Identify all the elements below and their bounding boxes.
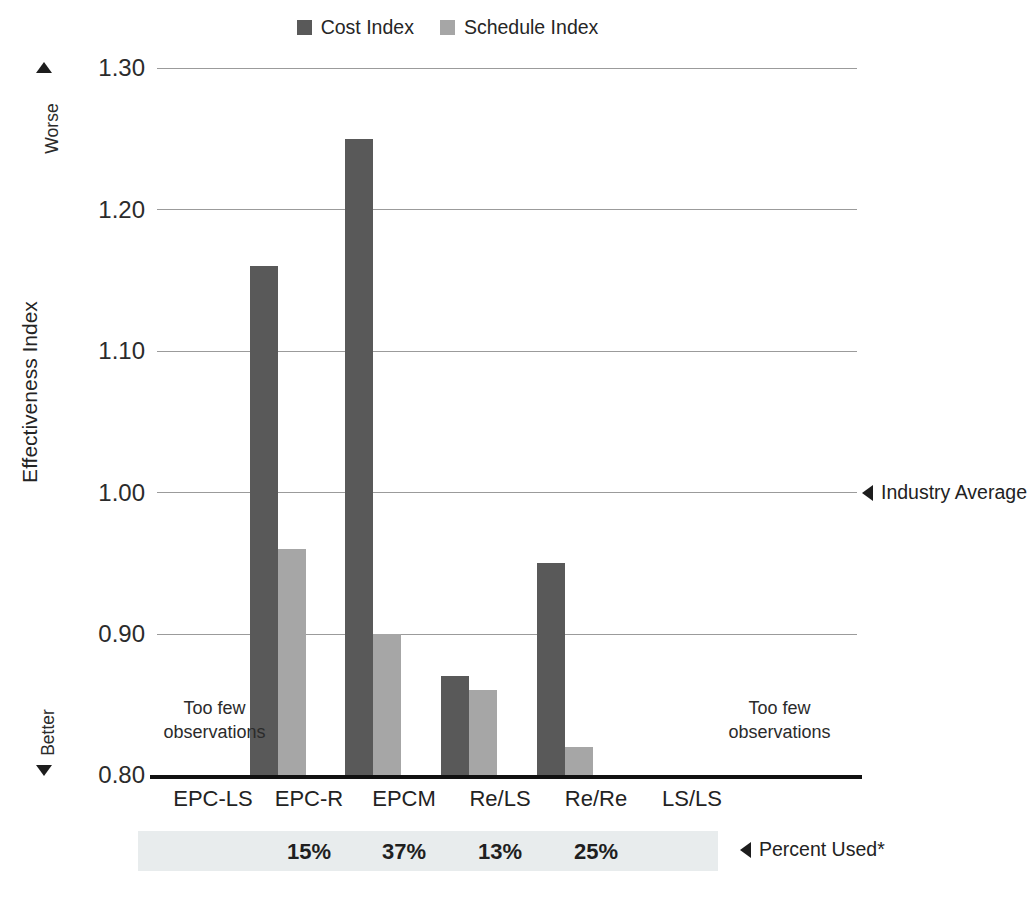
bar-schedule-re-ls <box>469 690 497 775</box>
annotation-industry-average: Industry Average <box>862 481 1027 504</box>
y-tick-120: 1.20 <box>45 198 145 222</box>
annotation-industry-average-label: Industry Average <box>881 481 1027 504</box>
y-tick-090: 0.90 <box>45 622 145 646</box>
legend-label-cost-index: Cost Index <box>321 18 414 38</box>
bar-cost-re-ls <box>441 676 469 775</box>
annotation-percent-used-label: Percent Used* <box>759 838 885 861</box>
arrow-up-icon <box>36 62 52 73</box>
legend-swatch-schedule-index <box>440 20 455 35</box>
x-axis-labels: EPC-LS EPC-R EPCM Re/LS Re/Re LS/LS <box>157 786 857 824</box>
arrow-left-icon-percent <box>740 842 751 858</box>
legend-swatch-cost-index <box>297 20 312 35</box>
annotation-percent-used: Percent Used* <box>740 838 885 861</box>
percent-used-band: 15% 37% 13% 25% <box>138 831 718 871</box>
arrow-left-icon <box>862 485 873 501</box>
y-tick-110: 1.10 <box>45 339 145 363</box>
bar-schedule-re-re <box>565 747 593 775</box>
gridline-130 <box>157 68 857 69</box>
gridline-120 <box>157 209 857 210</box>
y-tick-100: 1.00 <box>45 481 145 505</box>
legend-label-schedule-index: Schedule Index <box>464 18 598 38</box>
y-tick-080: 0.80 <box>45 763 145 787</box>
note-left-line1: Too few <box>183 698 245 718</box>
y-axis-title: Effectiveness Index <box>18 182 42 602</box>
note-too-few-observations-left: Too fewobservations <box>137 696 292 745</box>
legend-item-schedule-index: Schedule Index <box>440 18 598 38</box>
arrow-down-icon <box>36 765 52 776</box>
x-label-ls-ls: LS/LS <box>628 786 756 812</box>
axis-direction-worse: Worse <box>42 69 63 189</box>
percent-value-re-re: 25% <box>532 839 660 865</box>
chart-legend: Cost Index Schedule Index <box>0 18 895 38</box>
legend-item-cost-index: Cost Index <box>297 18 414 38</box>
plot-area: Too fewobservations Too fewobservations <box>157 68 857 775</box>
note-right-line2: observations <box>728 722 830 742</box>
bar-schedule-epcm <box>373 634 401 775</box>
bar-cost-epcm <box>345 139 373 775</box>
note-right-line1: Too few <box>748 698 810 718</box>
note-too-few-observations-right: Too fewobservations <box>697 696 862 745</box>
note-left-line2: observations <box>163 722 265 742</box>
x-axis-line <box>150 775 862 779</box>
bar-cost-re-re <box>537 563 565 775</box>
